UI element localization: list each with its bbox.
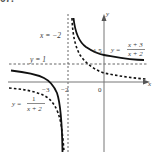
y-axis-label: y [105, 10, 110, 18]
dashed-equation-denominator: x + 2 [26, 105, 42, 113]
horizontal-asymptote-label: y = 1 [29, 55, 46, 64]
x-axis-label: x [147, 80, 152, 88]
dashed-equation-numerator: 1 [32, 95, 36, 103]
dashed-equation-lhs: y = [11, 100, 22, 108]
tick-zero: 0 [98, 86, 102, 94]
rational-function-graph: x y x = −2 y = 1 −3 −2 0 1.5 y = x + 3 x… [0, 0, 156, 156]
solid-equation-lhs: y = [110, 46, 121, 54]
vertical-asymptote-label: x = −2 [39, 31, 61, 40]
solid-equation-denominator: x + 2 [127, 50, 143, 58]
tick-neg2: −2 [61, 86, 69, 94]
solid-equation-numerator: x + 3 [127, 41, 143, 49]
dashed-curve-left [9, 88, 64, 152]
y-intercept-label: 1.5 [93, 47, 102, 55]
tick-neg3: −3 [42, 86, 50, 94]
